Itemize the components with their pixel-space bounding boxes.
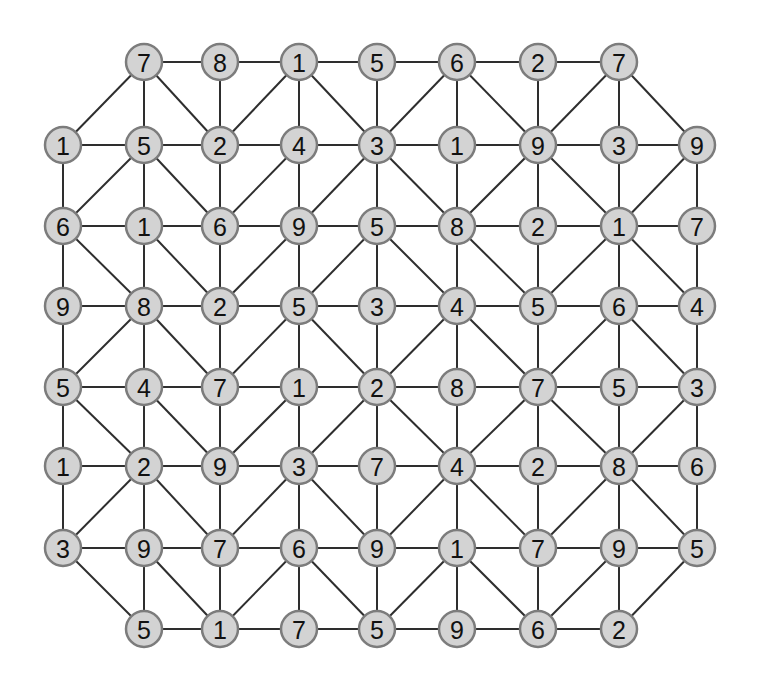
node-number: 6 [56, 213, 70, 241]
grid-node: 3 [359, 127, 395, 163]
grid-node: 5 [359, 611, 395, 647]
grid-node: 8 [601, 448, 637, 484]
grid-node: 9 [601, 530, 637, 566]
node-number: 3 [370, 132, 384, 160]
grid-node: 8 [202, 44, 238, 80]
grid-node: 4 [439, 288, 475, 324]
grid-node: 5 [126, 127, 162, 163]
node-number: 5 [531, 293, 545, 321]
node-number: 3 [292, 453, 306, 481]
grid-node: 8 [439, 208, 475, 244]
grid-node: 6 [601, 288, 637, 324]
grid-node: 2 [520, 208, 556, 244]
grid-node: 2 [359, 369, 395, 405]
grid-node: 4 [281, 127, 317, 163]
node-number: 2 [531, 49, 545, 77]
grid-node: 3 [281, 448, 317, 484]
node-number: 9 [56, 293, 70, 321]
node-number: 2 [213, 293, 227, 321]
node-number: 8 [612, 453, 626, 481]
grid-node: 2 [520, 44, 556, 80]
grid-node: 1 [439, 530, 475, 566]
grid-node: 1 [126, 208, 162, 244]
node-number: 1 [213, 616, 227, 644]
node-number: 1 [292, 49, 306, 77]
grid-node: 4 [126, 369, 162, 405]
node-number: 3 [370, 293, 384, 321]
node-number: 8 [450, 213, 464, 241]
grid-node: 9 [202, 448, 238, 484]
node-number: 9 [690, 132, 704, 160]
node-number: 5 [137, 616, 151, 644]
node-number: 9 [213, 453, 227, 481]
node-number: 4 [137, 374, 151, 402]
node-number: 5 [370, 213, 384, 241]
node-number: 1 [612, 213, 626, 241]
node-number: 1 [137, 213, 151, 241]
node-number: 9 [612, 535, 626, 563]
grid-node: 8 [439, 369, 475, 405]
node-number: 9 [531, 132, 545, 160]
grid-node: 9 [281, 208, 317, 244]
grid-node: 9 [126, 530, 162, 566]
node-number: 7 [213, 535, 227, 563]
grid-node: 7 [202, 369, 238, 405]
grid-node: 6 [679, 448, 715, 484]
grid-node: 6 [202, 208, 238, 244]
grid-node: 8 [126, 288, 162, 324]
grid-node: 7 [520, 530, 556, 566]
node-number: 6 [612, 293, 626, 321]
grid-node: 5 [359, 208, 395, 244]
grid-node: 2 [601, 611, 637, 647]
node-number: 5 [370, 616, 384, 644]
grid-node: 7 [202, 530, 238, 566]
grid-node: 2 [126, 448, 162, 484]
node-number: 2 [612, 616, 626, 644]
grid-node: 2 [520, 448, 556, 484]
node-number: 7 [612, 49, 626, 77]
grid-node: 9 [520, 127, 556, 163]
node-number: 1 [56, 132, 70, 160]
grid-node: 5 [679, 530, 715, 566]
node-number: 8 [450, 374, 464, 402]
node-number: 6 [531, 616, 545, 644]
node-number: 3 [612, 132, 626, 160]
node-number: 5 [370, 49, 384, 77]
grid-node: 7 [281, 611, 317, 647]
grid-node: 1 [45, 448, 81, 484]
grid-node: 5 [126, 611, 162, 647]
node-number: 5 [612, 374, 626, 402]
grid-node: 5 [359, 44, 395, 80]
grid-node: 3 [45, 530, 81, 566]
node-number: 2 [531, 453, 545, 481]
grid-node: 5 [520, 288, 556, 324]
grid-node: 2 [202, 127, 238, 163]
node-number: 9 [450, 616, 464, 644]
node-number: 7 [531, 374, 545, 402]
grid-node: 7 [679, 208, 715, 244]
grid-node: 7 [520, 369, 556, 405]
grid-node: 3 [679, 369, 715, 405]
grid-node: 6 [439, 44, 475, 80]
grid-node: 6 [281, 530, 317, 566]
node-number: 9 [370, 535, 384, 563]
node-number: 2 [213, 132, 227, 160]
node-number: 6 [690, 453, 704, 481]
node-number: 1 [292, 374, 306, 402]
grid-node: 9 [359, 530, 395, 566]
node-number: 5 [137, 132, 151, 160]
grid-node: 9 [439, 611, 475, 647]
node-number: 4 [292, 132, 306, 160]
node-number: 9 [292, 213, 306, 241]
node-number: 7 [690, 213, 704, 241]
grid-node: 1 [45, 127, 81, 163]
grid-node: 4 [679, 288, 715, 324]
node-number: 7 [292, 616, 306, 644]
grid-node: 9 [45, 288, 81, 324]
grid-node: 7 [126, 44, 162, 80]
grid-node: 5 [281, 288, 317, 324]
grid-node: 5 [45, 369, 81, 405]
node-number: 9 [137, 535, 151, 563]
node-number: 1 [450, 535, 464, 563]
node-number: 6 [450, 49, 464, 77]
